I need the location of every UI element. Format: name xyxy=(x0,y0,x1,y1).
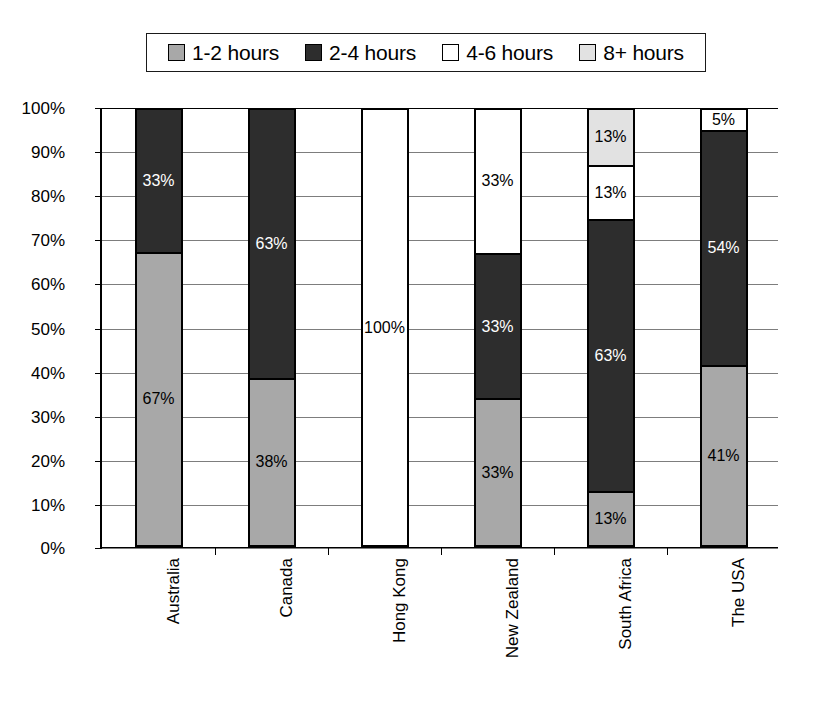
x-axis-category-text: New Zealand xyxy=(504,558,521,658)
stacked-bar[interactable]: 33%33%33% xyxy=(474,108,522,547)
y-axis-label: 80% xyxy=(31,188,65,205)
bar-segment-value: 67% xyxy=(142,391,174,407)
legend-swatch-h8p xyxy=(579,44,596,61)
bar-segment[interactable]: 33% xyxy=(476,400,520,545)
y-axis-label: 20% xyxy=(31,452,65,469)
y-axis-label: 30% xyxy=(31,408,65,425)
legend-entry: 2-4 hours xyxy=(305,42,416,63)
bar-segment[interactable]: 54% xyxy=(702,132,746,367)
bar-segment[interactable]: 33% xyxy=(476,110,520,255)
legend-label: 8+ hours xyxy=(603,42,684,63)
y-axis-label: 70% xyxy=(31,232,65,249)
y-axis-tick xyxy=(95,417,102,418)
bar-slot: 33%33%33% xyxy=(441,108,554,547)
y-axis-tick xyxy=(95,461,102,462)
chart-container: 1-2 hours2-4 hours4-6 hours8+ hours 0%10… xyxy=(0,0,815,709)
y-axis-label: 0% xyxy=(40,540,65,557)
y-axis-label: 60% xyxy=(31,276,65,293)
stacked-bar[interactable]: 41%54%5% xyxy=(700,108,748,547)
stacked-bar[interactable]: 13%63%13%13% xyxy=(587,108,635,547)
x-axis-category-label: New Zealand xyxy=(504,558,521,698)
legend-swatch-h1_2 xyxy=(168,44,185,61)
legend-swatch-h2_4 xyxy=(305,44,322,61)
y-axis-label: 10% xyxy=(31,496,65,513)
y-axis-tick xyxy=(95,152,102,153)
bar-segment-value: 38% xyxy=(255,454,287,470)
x-axis-category-label: The USA xyxy=(730,558,747,698)
x-axis-category-text: The USA xyxy=(730,558,747,627)
legend-label: 1-2 hours xyxy=(192,42,279,63)
y-axis-label: 40% xyxy=(31,364,65,381)
bar-segment-value: 41% xyxy=(707,448,739,464)
legend-label: 4-6 hours xyxy=(466,42,553,63)
x-axis-tick xyxy=(441,547,442,555)
bar-slot: 41%54%5% xyxy=(667,108,780,547)
y-axis-tick xyxy=(95,240,102,241)
x-axis-tick xyxy=(215,547,216,555)
x-axis-tick xyxy=(328,547,329,555)
y-axis-tick xyxy=(95,329,102,330)
bar-slot: 38%63% xyxy=(215,108,328,547)
x-axis-category-text: Canada xyxy=(278,558,295,618)
bar-segment-value: 33% xyxy=(481,465,513,481)
y-axis-label: 100% xyxy=(22,100,65,117)
x-axis-category-text: South Africa xyxy=(617,558,634,650)
bar-segment[interactable]: 13% xyxy=(589,110,633,167)
y-gridline xyxy=(102,548,778,549)
x-axis-category-label: South Africa xyxy=(617,558,634,698)
plot-inner: 0%10%20%30%40%50%60%70%80%90%100%67%33%3… xyxy=(102,108,778,547)
bar-segment-value: 13% xyxy=(594,511,626,527)
bar-segment-value: 33% xyxy=(481,319,513,335)
stacked-bar[interactable]: 100% xyxy=(361,108,409,547)
bar-slot: 13%63%13%13% xyxy=(554,108,667,547)
bar-segment-value: 33% xyxy=(481,173,513,189)
x-axis-tick xyxy=(667,547,668,555)
y-axis-tick xyxy=(95,548,102,549)
bar-slot: 100% xyxy=(328,108,441,547)
x-axis-tick xyxy=(554,547,555,555)
y-axis-tick xyxy=(95,196,102,197)
bar-segment[interactable]: 63% xyxy=(250,110,294,380)
x-axis-category-text: Australia xyxy=(165,558,182,624)
x-axis-category-text: Hong Kong xyxy=(391,558,408,643)
bar-segment[interactable]: 13% xyxy=(589,493,633,545)
bar-segment[interactable]: 100% xyxy=(363,110,407,545)
y-axis-label: 50% xyxy=(31,320,65,337)
bar-segment[interactable]: 33% xyxy=(137,110,181,254)
y-axis-tick xyxy=(95,373,102,374)
bar-segment[interactable]: 13% xyxy=(589,167,633,221)
bar-segment-value: 33% xyxy=(142,173,174,189)
x-axis-category-label: Hong Kong xyxy=(391,558,408,698)
bar-segment[interactable]: 5% xyxy=(702,110,746,132)
x-axis-category-label: Australia xyxy=(165,558,182,698)
bar-segment[interactable]: 67% xyxy=(137,254,181,545)
bar-segment[interactable]: 63% xyxy=(589,221,633,493)
legend-swatch-h4_6 xyxy=(442,44,459,61)
x-axis-category-label: Canada xyxy=(278,558,295,698)
legend-entry: 4-6 hours xyxy=(442,42,553,63)
y-axis-tick xyxy=(95,108,102,109)
bar-segment-value: 54% xyxy=(707,240,739,256)
bar-segment-value: 100% xyxy=(364,320,405,336)
bar-segment-value: 13% xyxy=(594,185,626,201)
y-axis-tick xyxy=(95,505,102,506)
legend-entry: 1-2 hours xyxy=(168,42,279,63)
bar-slot: 67%33% xyxy=(102,108,215,547)
stacked-bar[interactable]: 38%63% xyxy=(248,108,296,547)
bar-segment-value: 13% xyxy=(594,129,626,145)
stacked-bar[interactable]: 67%33% xyxy=(135,108,183,547)
y-axis-tick xyxy=(95,284,102,285)
bar-segment[interactable]: 33% xyxy=(476,255,520,400)
legend-label: 2-4 hours xyxy=(329,42,416,63)
plot-area: 0%10%20%30%40%50%60%70%80%90%100%67%33%3… xyxy=(100,108,778,549)
bar-segment[interactable]: 38% xyxy=(250,380,294,545)
bar-segment-value: 63% xyxy=(594,348,626,364)
legend-entry: 8+ hours xyxy=(579,42,684,63)
bar-segment[interactable]: 41% xyxy=(702,367,746,545)
chart-legend: 1-2 hours2-4 hours4-6 hours8+ hours xyxy=(146,33,706,72)
bar-segment-value: 5% xyxy=(712,112,735,128)
bar-segment-value: 63% xyxy=(255,236,287,252)
y-axis-label: 90% xyxy=(31,144,65,161)
